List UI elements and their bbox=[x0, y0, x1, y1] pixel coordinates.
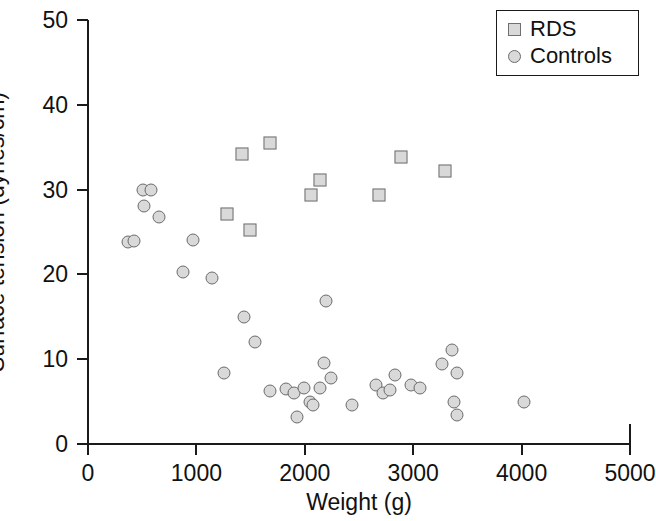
data-point-rds bbox=[372, 188, 385, 201]
x-axis-tick-label: 3000 bbox=[388, 462, 439, 485]
x-axis-tick-label: 2000 bbox=[279, 462, 330, 485]
y-axis-tick-label: 10 bbox=[42, 348, 68, 371]
y-axis-tick-label: 30 bbox=[42, 178, 68, 201]
y-axis-tick-label: 50 bbox=[42, 9, 68, 32]
data-point-controls bbox=[450, 366, 463, 379]
plot-area: 01020304050010002000300040005000 bbox=[88, 20, 630, 444]
data-point-rds bbox=[243, 224, 256, 237]
legend-label-rds: RDS bbox=[530, 18, 576, 40]
data-point-controls bbox=[138, 199, 151, 212]
x-axis-tick bbox=[629, 444, 631, 455]
data-point-controls bbox=[448, 395, 461, 408]
data-point-controls bbox=[238, 310, 251, 323]
data-point-controls bbox=[307, 398, 320, 411]
data-point-controls bbox=[384, 383, 397, 396]
data-point-controls bbox=[517, 395, 530, 408]
data-point-controls bbox=[264, 384, 277, 397]
data-point-controls bbox=[205, 271, 218, 284]
x-axis-tick bbox=[521, 444, 523, 455]
x-axis-tick-label: 4000 bbox=[496, 462, 547, 485]
legend-label-controls: Controls bbox=[530, 45, 612, 67]
data-point-controls bbox=[450, 409, 463, 422]
x-axis-tick bbox=[87, 444, 89, 455]
y-axis-tick-label: 0 bbox=[55, 433, 68, 456]
data-point-controls bbox=[128, 235, 141, 248]
legend-entry-rds: RDS bbox=[508, 18, 576, 40]
data-point-controls bbox=[388, 369, 401, 382]
x-axis-tick-label: 5000 bbox=[604, 462, 655, 485]
data-point-controls bbox=[176, 265, 189, 278]
data-point-controls bbox=[324, 371, 337, 384]
data-point-controls bbox=[291, 410, 304, 423]
x-axis-label: Weight (g) bbox=[306, 489, 412, 516]
x-axis-tick bbox=[195, 444, 197, 455]
circle-marker-icon bbox=[508, 50, 521, 63]
y-axis-tick bbox=[77, 189, 88, 191]
data-point-controls bbox=[248, 336, 261, 349]
x-axis-tick bbox=[412, 444, 414, 455]
data-point-rds bbox=[220, 208, 233, 221]
data-point-controls bbox=[217, 366, 230, 379]
data-point-rds bbox=[235, 147, 248, 160]
data-point-rds bbox=[305, 188, 318, 201]
y-axis-tick bbox=[77, 358, 88, 360]
data-point-controls bbox=[153, 210, 166, 223]
data-point-controls bbox=[436, 358, 449, 371]
data-point-controls bbox=[318, 356, 331, 369]
data-point-controls bbox=[187, 234, 200, 247]
data-point-rds bbox=[313, 174, 326, 187]
data-point-controls bbox=[313, 382, 326, 395]
data-point-controls bbox=[413, 382, 426, 395]
x-axis-tick bbox=[304, 444, 306, 455]
y-axis-tick bbox=[77, 273, 88, 275]
data-point-rds bbox=[438, 164, 451, 177]
legend: RDS Controls bbox=[496, 10, 639, 76]
x-axis-tick-label: 1000 bbox=[171, 462, 222, 485]
y-axis-tick bbox=[77, 104, 88, 106]
data-point-rds bbox=[395, 150, 408, 163]
y-axis-tick-label: 40 bbox=[42, 93, 68, 116]
data-point-controls bbox=[144, 183, 157, 196]
x-axis-tick-label: 0 bbox=[82, 462, 95, 485]
data-point-controls bbox=[297, 382, 310, 395]
data-point-controls bbox=[320, 294, 333, 307]
data-point-controls bbox=[346, 398, 359, 411]
legend-entry-controls: Controls bbox=[508, 45, 612, 67]
y-axis-tick bbox=[77, 19, 88, 21]
y-axis-label: Surface tension (dynes/cm) bbox=[0, 92, 10, 372]
data-point-controls bbox=[446, 343, 459, 356]
square-marker-icon bbox=[508, 23, 521, 36]
data-point-rds bbox=[264, 136, 277, 149]
y-axis-tick-label: 20 bbox=[42, 263, 68, 286]
